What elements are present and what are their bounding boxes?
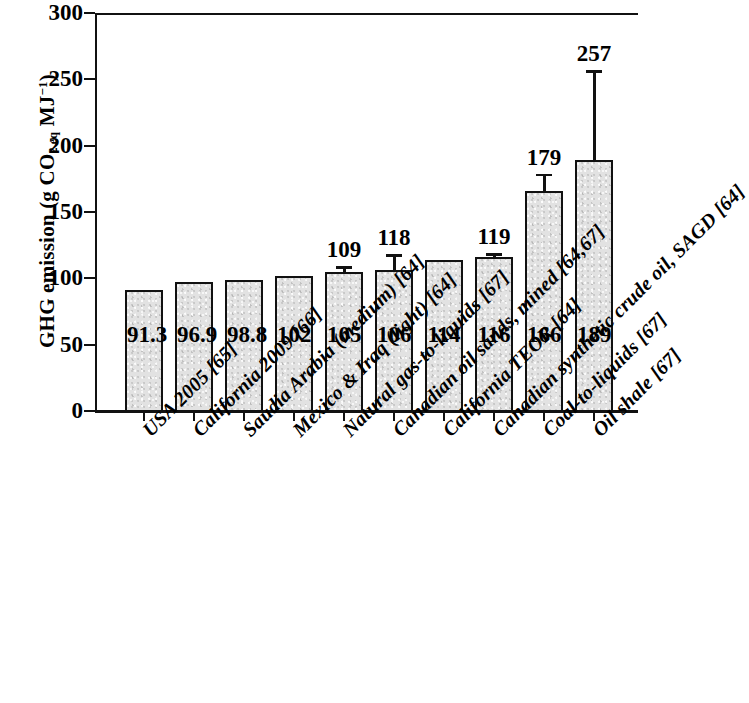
y-axis-tick-label: 0 <box>11 399 83 422</box>
y-axis-tick-label: 250 <box>11 67 83 90</box>
bar-value-label: 91.3 <box>127 323 161 346</box>
bar[interactable]: 91.3 <box>125 290 163 412</box>
error-bar-stem <box>593 70 596 160</box>
y-axis-tick <box>84 78 95 80</box>
y-axis-tick <box>84 410 95 412</box>
error-bar-value-label: 119 <box>459 225 529 248</box>
bar-value-label: 96.9 <box>177 323 211 346</box>
error-bar-value-label: 179 <box>509 146 579 169</box>
error-bar-cap <box>536 174 552 177</box>
error-bar-cap <box>586 70 602 73</box>
error-bar-cap <box>336 266 352 269</box>
y-axis-tick-label: 300 <box>11 1 83 24</box>
y-axis-title-mid: MJ <box>35 96 59 132</box>
error-bar-value-label: 257 <box>559 42 629 65</box>
error-bar-stem <box>543 174 546 191</box>
y-axis-tick-label: 150 <box>11 200 83 223</box>
y-axis-tick-label: 50 <box>11 333 83 356</box>
error-bar-value-label: 118 <box>359 226 429 249</box>
error-bar-cap <box>486 253 502 256</box>
y-axis-tick <box>84 344 95 346</box>
error-bar-cap <box>386 254 402 257</box>
y-axis-tick-label: 100 <box>11 266 83 289</box>
y-axis-tick <box>84 277 95 279</box>
bar-value-label: 98.8 <box>227 323 261 346</box>
y-axis-title-prefix: GHG emission (g CO <box>35 154 59 348</box>
y-axis-tick <box>84 12 95 14</box>
y-axis-tick <box>84 211 95 213</box>
y-axis-tick <box>84 145 95 147</box>
y-axis-tick-label: 200 <box>11 134 83 157</box>
